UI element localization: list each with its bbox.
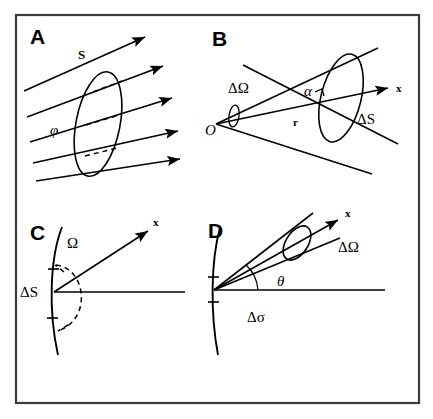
figure-container: A S φ B [0,0,433,419]
panel-b-label-axis-x: x [396,82,402,94]
figure-canvas: A S φ B [0,0,433,419]
panel-b-letter: B [212,27,227,50]
panel-d: D θ Δσ ΔΩ x [208,207,385,355]
panel-d-label-axis-x: x [345,207,351,219]
figure-frame [16,15,419,403]
panel-a: A S φ [24,25,180,181]
cone-upper-edge [214,213,313,290]
panel-a-letter: A [30,25,45,48]
surface-ellipse-s [66,68,129,180]
panel-a-label-phi: φ [50,122,58,138]
panel-c-letter: C [30,221,45,244]
hemisphere-dashed-arc [56,265,81,330]
panel-b-label-origin-o: O [205,122,216,138]
panel-a-rays [24,37,180,181]
panel-c-label-omega: Ω [67,235,78,251]
right-angle-mark [315,89,324,96]
panel-b: B ΔΩ O α r ΔS x [205,27,402,174]
panel-d-label-theta: θ [277,273,285,289]
panel-d-label-delta-sigma: Δσ [247,309,265,325]
panel-b-label-delta-s: ΔS [357,111,375,127]
panel-c-label-delta-s: ΔS [20,284,38,300]
panel-d-letter: D [208,219,223,242]
panel-c-label-axis-x: x [153,216,159,228]
panel-d-label-delta-omega: ΔΩ [338,239,359,255]
boundary-arc [213,228,220,355]
panel-b-label-delta-omega: ΔΩ [228,80,249,96]
panel-b-label-r: r [293,116,298,128]
axis-x-arrow [214,220,338,290]
panel-a-label-s: S [78,47,85,62]
panel-b-label-alpha: α [304,83,313,99]
panel-c: C Ω ΔS x [20,216,185,355]
hemisphere-arrow-tips [55,265,68,331]
